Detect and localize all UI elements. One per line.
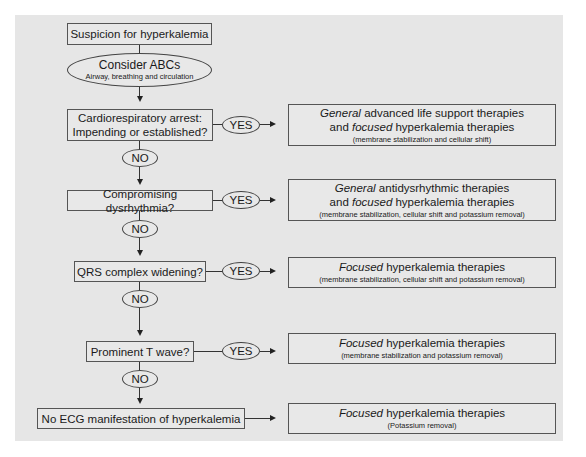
yes-oval-4: YES (222, 342, 260, 360)
abc-subtitle: Airway, breathing and circulation (86, 72, 194, 82)
arrow-down-icon (137, 398, 143, 404)
outcome-1-detail: (membrane stabilization and cellular shi… (353, 134, 491, 145)
yes-oval-1: YES (222, 116, 260, 134)
yes-oval-2: YES (222, 191, 260, 209)
connector (260, 200, 270, 201)
outcome-5-detail: (Potassium removal) (388, 420, 457, 431)
start-box: Suspicion for hyperkalemia (67, 23, 212, 45)
no-oval-2: NO (122, 220, 158, 238)
no-oval-3: NO (122, 290, 158, 308)
decision-prominent-t-wave: Prominent T wave? (86, 341, 194, 362)
arrow-right-icon (270, 415, 276, 421)
arrow-down-icon (137, 330, 143, 336)
outcome-3-detail: (membrane stabilization, cellular shift … (319, 274, 525, 285)
connector (260, 351, 270, 352)
no-oval-1: NO (122, 149, 158, 167)
yes-oval-3: YES (222, 262, 260, 280)
arrow-down-icon (137, 250, 143, 256)
no-ecg-manifestation-box: No ECG manifestation of hyperkalemia (37, 408, 245, 429)
no-oval-4: NO (122, 370, 158, 388)
decision-1-line1: Cardiorespiratory arrest: (78, 111, 202, 125)
decision-qrs-widening: QRS complex widening? (74, 261, 206, 282)
decision-1-line2: Impending or established? (73, 125, 208, 139)
outcome-box-2: General antidysrhythmic therapies and fo… (288, 179, 556, 221)
outcome-box-5: Focused hyperkalemia therapies (Potassiu… (288, 403, 556, 434)
arrow-down-icon (137, 179, 143, 185)
abc-title: Consider ABCs (99, 58, 180, 72)
connector (245, 418, 270, 419)
arrow-right-icon (270, 348, 276, 354)
outcome-4-detail: (membrane stabilization and potassium re… (341, 350, 503, 361)
arrow-right-icon (270, 121, 276, 127)
connector (139, 308, 140, 331)
abc-oval: Consider ABCs Airway, breathing and circ… (67, 53, 212, 87)
connector (206, 271, 223, 272)
connector (194, 351, 223, 352)
outcome-box-3: Focused hyperkalemia therapies (membrane… (288, 257, 556, 288)
start-label: Suspicion for hyperkalemia (70, 27, 208, 41)
connector (260, 124, 270, 125)
connector (139, 167, 140, 179)
arrow-right-icon (270, 268, 276, 274)
outcome-box-1: General advanced life support therapies … (288, 104, 556, 146)
arrow-down-icon (137, 96, 143, 102)
decision-cardiorespiratory-arrest: Cardiorespiratory arrest: Impending or e… (67, 109, 213, 141)
connector (260, 271, 270, 272)
decision-compromising-dysrhythmia: Compromising dysrhythmia? (67, 190, 213, 211)
outcome-box-4: Focused hyperkalemia therapies (membrane… (288, 333, 556, 364)
connector (139, 238, 140, 250)
arrow-right-icon (270, 197, 276, 203)
connector (139, 86, 140, 96)
outcome-2-detail: (membrane stabilization, cellular shift … (319, 209, 525, 220)
